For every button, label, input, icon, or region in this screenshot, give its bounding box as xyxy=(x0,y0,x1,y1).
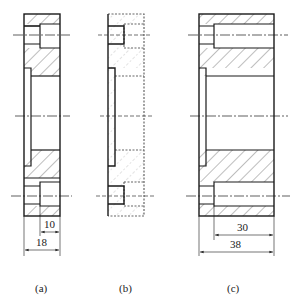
dimension-18: 18 xyxy=(36,236,47,248)
figure-c xyxy=(186,14,290,256)
caption-a: (a) xyxy=(35,282,47,294)
caption-c: (c) xyxy=(227,282,239,294)
figure-a xyxy=(11,14,72,256)
dimension-10: 10 xyxy=(44,218,55,230)
figure-b xyxy=(96,14,154,216)
dimension-38: 38 xyxy=(230,238,241,250)
caption-b: (b) xyxy=(119,282,132,294)
dimension-30: 30 xyxy=(237,221,248,233)
technical-drawing xyxy=(0,0,290,306)
